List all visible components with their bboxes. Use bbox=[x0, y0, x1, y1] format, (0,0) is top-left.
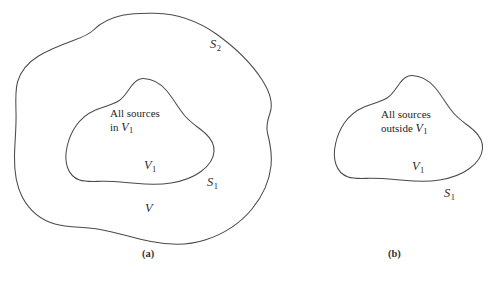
note-line-1: All sources bbox=[381, 108, 431, 121]
caption-panel-a: (a) bbox=[142, 248, 154, 260]
contour-drawing bbox=[0, 0, 496, 282]
caption-panel-b: (b) bbox=[388, 248, 401, 260]
label-s2-panel-a: S2 bbox=[210, 37, 221, 52]
label-v1-panel-a: V1 bbox=[144, 158, 156, 173]
note-line-2: in V1 bbox=[110, 120, 160, 134]
clipped-bottom-edge-text bbox=[0, 276, 496, 282]
note-line-2: outside V1 bbox=[381, 121, 431, 135]
label-v1-panel-b: V1 bbox=[412, 159, 424, 174]
figure-root: S2 All sources in V1 V1 S1 V (a) All sou… bbox=[0, 0, 496, 282]
label-s1-panel-a: S1 bbox=[207, 175, 218, 190]
note-line-1: All sources bbox=[110, 107, 160, 120]
note-all-sources-outside-v1: All sources outside V1 bbox=[381, 108, 431, 135]
label-v-panel-a: V bbox=[145, 201, 153, 216]
note-all-sources-in-v1: All sources in V1 bbox=[110, 107, 160, 134]
label-s1-panel-b: S1 bbox=[444, 186, 455, 201]
